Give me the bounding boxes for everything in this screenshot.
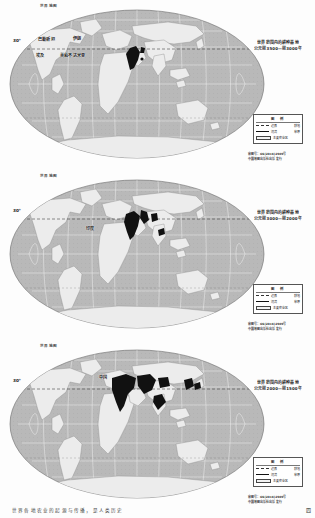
legend-label: 主要农业区	[273, 306, 300, 310]
legend-label: 主要农业区	[273, 479, 300, 483]
map-title-line2: 公元前2000—前1500年	[245, 386, 311, 392]
credit-line-2: 中国地图出版社出版 发行	[248, 157, 308, 161]
legend-row: 边界 耕地	[256, 294, 300, 299]
world-projection-svg	[8, 178, 266, 330]
legend-header: 图 例	[256, 459, 300, 466]
legend-header: 图 例	[256, 116, 300, 123]
latitude-label: 30°	[13, 378, 21, 383]
region-label: 巴勒斯坦	[38, 36, 55, 42]
legend-value: 草原	[291, 130, 300, 134]
world-map-graphic-3	[8, 348, 266, 500]
legend-row: 边界 耕地	[256, 124, 300, 129]
map-title-block: 世界范围内的耕种基地 公元前2000—前1500年	[245, 380, 311, 391]
legend-label: 主要农业区	[273, 136, 300, 140]
legend-row: 河流 草原	[256, 300, 300, 305]
legend-area-swatch-icon	[256, 479, 271, 484]
legend-value: 耕地	[291, 294, 300, 298]
map-credit: 审图号：GS(2016)2909号 中国地图出版社出版 发行	[248, 322, 308, 331]
legend-row: 主要农业区	[256, 478, 300, 483]
legend-value: 草原	[291, 300, 300, 304]
legend-label: 边界	[271, 294, 289, 298]
map-legend: 图 例 边界 耕地 河流 草原 主要农业区	[253, 114, 303, 144]
legend-row: 河流 草原	[256, 130, 300, 135]
map-title-block: 世界范围内的耕种基地 公元前3000—前2000年	[245, 210, 311, 221]
region-label: 中国	[99, 374, 107, 380]
legend-value: 耕地	[291, 467, 300, 471]
region-label: 伊朗	[73, 35, 81, 41]
latitude-label: 30°	[13, 38, 21, 43]
legend-row: 主要农业区	[256, 305, 300, 310]
legend-label: 河流	[271, 473, 289, 477]
legend-label: 河流	[271, 130, 289, 134]
region-label: 埃及	[36, 52, 44, 58]
figure-page: 世界地图	[0, 0, 315, 518]
page-footer: 世界各地农业的起源与传播，是人类历史 四	[0, 504, 315, 518]
map-legend: 图 例 边界 耕地 河流 草原 主要农业区	[253, 457, 303, 487]
legend-solid-line-icon	[256, 131, 269, 135]
map-panel-2: 世界地图	[0, 170, 315, 340]
map-credit: 审图号：GS(2016)2909号 中国地图出版社出版 发行	[248, 495, 308, 504]
legend-value: 耕地	[291, 124, 300, 128]
legend-row: 主要农业区	[256, 135, 300, 140]
world-projection-svg	[8, 8, 266, 160]
legend-row: 河流 草原	[256, 473, 300, 478]
legend-dashed-line-icon	[256, 125, 269, 129]
page-footer-text: 世界各地农业的起源与传播，是人类历史	[12, 507, 124, 513]
legend-solid-line-icon	[256, 474, 269, 478]
region-label: 美索不达米亚	[60, 52, 85, 58]
world-map-graphic-2	[8, 178, 266, 330]
legend-area-swatch-icon	[256, 306, 271, 311]
region-label: 印度	[86, 225, 94, 231]
legend-label: 边界	[271, 467, 289, 471]
legend-row: 边界 耕地	[256, 467, 300, 472]
map-panel-1: 世界地图	[0, 0, 315, 170]
map-panel-3: 世界地图	[0, 340, 315, 513]
page-number: 四	[306, 506, 311, 513]
world-map-graphic-1	[8, 8, 266, 160]
legend-value: 草原	[291, 473, 300, 477]
world-projection-svg	[8, 348, 266, 500]
latitude-label: 30°	[13, 208, 21, 213]
legend-label: 河流	[271, 300, 289, 304]
legend-dashed-line-icon	[256, 468, 269, 472]
legend-label: 边界	[271, 124, 289, 128]
legend-header: 图 例	[256, 286, 300, 293]
credit-line-2: 中国地图出版社出版 发行	[248, 327, 308, 331]
map-title-line2: 公元前3500—前3000年	[245, 46, 311, 52]
map-legend: 图 例 边界 耕地 河流 草原 主要农业区	[253, 284, 303, 314]
legend-area-swatch-icon	[256, 136, 271, 141]
map-title-block: 世界范围内的耕种基地 公元前3500—前3000年	[245, 40, 311, 51]
map-credit: 审图号：GS(2016)2909号 中国地图出版社出版 发行	[248, 152, 308, 161]
legend-solid-line-icon	[256, 301, 269, 305]
legend-dashed-line-icon	[256, 295, 269, 299]
map-title-line2: 公元前3000—前2000年	[245, 216, 311, 222]
